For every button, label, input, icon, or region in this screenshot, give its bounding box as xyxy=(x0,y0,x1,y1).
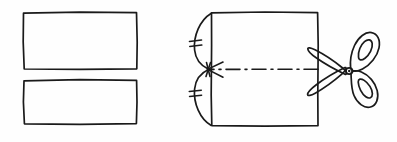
upper-fold-tick-marks xyxy=(190,40,202,47)
right-group-folded-sheet xyxy=(189,12,379,126)
scissors-handle-lower-inner xyxy=(358,79,372,98)
scissors-pivot-center xyxy=(348,70,350,72)
figure-root: Fold and cut diagram Hand-drawn line dia… xyxy=(0,0,397,142)
lower-fold-arc xyxy=(194,70,211,126)
lower-fold-tick-marks xyxy=(189,90,201,96)
left-group-separated-rectangles xyxy=(23,12,137,124)
diagram-canvas xyxy=(0,0,397,142)
scissors-handle-upper-outer xyxy=(350,32,379,71)
scissors-handle-upper-inner xyxy=(358,40,372,60)
scissors-handle-lower-outer xyxy=(351,71,378,108)
upper-rectangle xyxy=(23,12,137,69)
lower-rectangle xyxy=(23,80,137,125)
